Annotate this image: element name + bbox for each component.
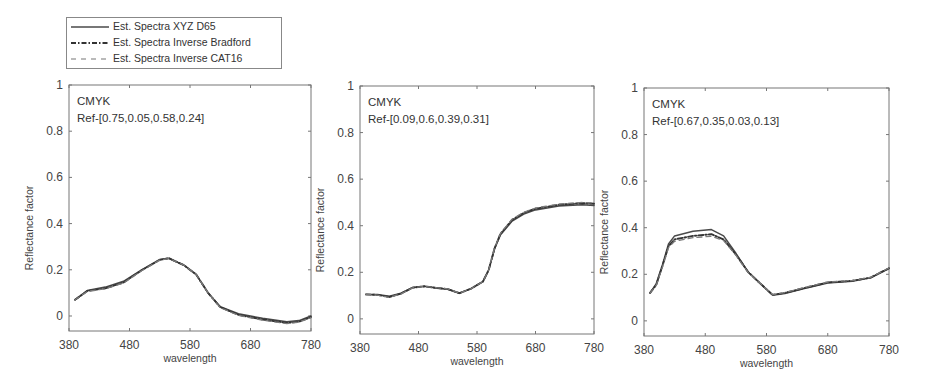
annotation-text: CMYK <box>652 98 686 110</box>
y-tick-label: 0.6 <box>621 174 638 188</box>
series-line <box>650 234 889 295</box>
annotation-text: Ref-[0.67,0.35,0.03,0.13] <box>652 115 779 127</box>
x-tick-label: 780 <box>879 343 899 357</box>
y-tick-label: 0.2 <box>621 267 638 281</box>
x-axis-label: wavelength <box>739 357 793 369</box>
series-line <box>650 236 889 294</box>
x-tick-label: 680 <box>818 343 838 357</box>
x-tick-label: 480 <box>695 343 715 357</box>
plot-3: 00.20.40.60.81380480580680780wavelengthR… <box>0 0 925 389</box>
x-tick-label: 580 <box>756 343 776 357</box>
y-tick-label: 0.4 <box>621 221 638 235</box>
series-line <box>650 230 889 296</box>
y-tick-label: 0 <box>631 314 638 328</box>
y-axis-label: Reflectance factor <box>598 189 610 274</box>
x-tick-label: 380 <box>634 343 654 357</box>
y-tick-label: 1 <box>631 81 638 95</box>
y-tick-label: 0.8 <box>621 128 638 142</box>
